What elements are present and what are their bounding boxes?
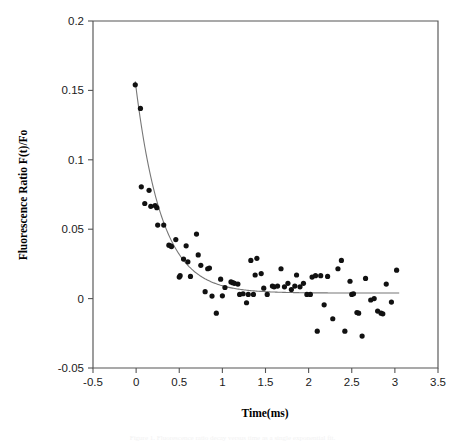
data-point <box>214 311 219 316</box>
data-point <box>342 329 347 334</box>
data-point <box>240 291 245 296</box>
data-point <box>351 291 356 296</box>
data-point <box>169 244 174 249</box>
x-axis-ticks: -0.500.511.522.533.5 <box>83 368 446 388</box>
figure-container: -0.0500.050.10.150.2 -0.500.511.522.533.… <box>0 0 465 442</box>
data-point <box>325 274 330 279</box>
data-point <box>335 266 340 271</box>
y-tick-label: 0.15 <box>62 84 84 96</box>
data-point <box>133 82 138 87</box>
data-point <box>278 266 283 271</box>
data-point <box>313 273 318 278</box>
data-point <box>356 311 361 316</box>
data-point <box>339 258 344 263</box>
data-point <box>318 273 323 278</box>
data-point <box>173 237 178 242</box>
data-point <box>198 263 203 268</box>
y-axis-ticks: -0.0500.050.10.150.2 <box>58 15 93 374</box>
data-point <box>251 292 256 297</box>
data-point <box>363 276 368 281</box>
data-point <box>330 316 335 321</box>
fit-curve <box>135 81 399 293</box>
data-point <box>218 277 223 282</box>
x-tick-label: 2.5 <box>344 376 360 388</box>
x-tick-label: 1 <box>219 376 225 388</box>
data-point <box>265 292 270 297</box>
data-point <box>184 243 189 248</box>
data-point <box>194 231 199 236</box>
data-point <box>394 268 399 273</box>
data-point <box>203 289 208 294</box>
data-point <box>138 106 143 111</box>
data-point <box>196 252 201 257</box>
data-point <box>285 281 290 286</box>
data-points-group <box>133 82 400 338</box>
data-point <box>185 259 190 264</box>
data-point <box>254 256 259 261</box>
data-point <box>389 299 394 304</box>
data-point <box>308 292 313 297</box>
data-point <box>244 300 249 305</box>
x-tick-label: 3.5 <box>430 376 446 388</box>
x-tick-label: 0 <box>133 376 139 388</box>
x-tick-label: -0.5 <box>83 376 103 388</box>
data-point <box>235 281 240 286</box>
y-axis-title: Fluorescence Ratio F(t)/Fo <box>17 129 30 260</box>
data-point <box>315 329 320 334</box>
data-point <box>146 188 151 193</box>
data-point <box>161 222 166 227</box>
data-point <box>248 258 253 263</box>
data-point <box>155 222 160 227</box>
data-point <box>301 281 306 286</box>
x-axis-title: Time(ms) <box>241 407 288 420</box>
data-point <box>139 184 144 189</box>
data-point <box>294 272 299 277</box>
data-point <box>292 284 297 289</box>
data-point <box>181 256 186 261</box>
data-point <box>372 296 377 301</box>
y-tick-label: 0.2 <box>68 15 84 27</box>
data-point <box>261 286 266 291</box>
x-tick-label: 2 <box>305 376 311 388</box>
data-point <box>380 311 385 316</box>
y-tick-label: 0.1 <box>68 154 84 166</box>
x-tick-label: 3 <box>392 376 398 388</box>
data-point <box>154 205 159 210</box>
x-tick-label: 1.5 <box>258 376 274 388</box>
x-tick-label: 0.5 <box>171 376 187 388</box>
data-point <box>246 292 251 297</box>
data-point <box>178 273 183 278</box>
data-point <box>347 279 352 284</box>
figure-caption: Figure 1. Fluorescence ratio decay versu… <box>0 434 465 442</box>
data-point <box>207 265 212 270</box>
y-tick-label: 0 <box>78 293 84 305</box>
data-point <box>384 281 389 286</box>
y-tick-label: -0.05 <box>58 362 84 374</box>
data-point <box>209 294 214 299</box>
data-point <box>142 201 147 206</box>
data-point <box>259 271 264 276</box>
plot-frame <box>93 21 438 368</box>
data-point <box>322 302 327 307</box>
data-point <box>275 284 280 289</box>
data-point <box>360 333 365 338</box>
scatter-plot: -0.0500.050.10.150.2 -0.500.511.522.533.… <box>0 0 465 442</box>
data-point <box>220 293 225 298</box>
data-point <box>222 285 227 290</box>
axis-frame <box>93 21 438 368</box>
data-point <box>253 272 258 277</box>
data-point <box>188 274 193 279</box>
y-tick-label: 0.05 <box>62 223 84 235</box>
